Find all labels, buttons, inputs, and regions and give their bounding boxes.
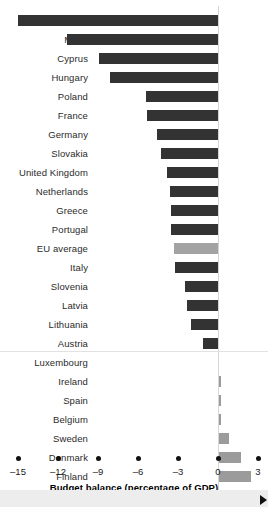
- axis-tick-dot: [96, 456, 101, 461]
- category-label: France: [0, 106, 88, 125]
- page-forward-pointer-icon: [260, 495, 267, 505]
- category-label: Poland: [0, 87, 88, 106]
- chart-row: Ireland: [0, 372, 268, 391]
- category-label: United Kingdom: [0, 163, 88, 182]
- axis-tick-label: –3: [163, 466, 193, 477]
- chart-row: Denmark: [0, 448, 268, 467]
- chart-row: Slovakia: [0, 144, 268, 163]
- chart-row: Poland: [0, 87, 268, 106]
- bar: [174, 243, 218, 254]
- axis-tick-label: –12: [43, 466, 73, 477]
- bar: [157, 129, 218, 140]
- category-label: Sweden: [0, 429, 88, 448]
- bar: [175, 262, 218, 273]
- category-label: Netherlands: [0, 182, 88, 201]
- chart-row: Netherlands: [0, 182, 268, 201]
- chart-row: Belgium: [0, 410, 268, 429]
- category-label: Spain: [0, 391, 88, 410]
- category-label: Latvia: [0, 296, 88, 315]
- chart-row: France: [0, 106, 268, 125]
- axis-tick-label: 0: [203, 466, 233, 477]
- bar: [218, 433, 229, 444]
- axis-tick-label: –6: [123, 466, 153, 477]
- chart-row: Slovenia: [0, 277, 268, 296]
- axis-tick-dot: [16, 456, 21, 461]
- chart-row: Hungary: [0, 68, 268, 87]
- category-label: Denmark: [0, 448, 88, 467]
- positive-negative-separator: [0, 351, 268, 352]
- chart-row: Greece: [0, 201, 268, 220]
- bar: [161, 148, 218, 159]
- category-label: Luxembourg: [0, 353, 88, 372]
- bar: [218, 452, 241, 463]
- bar: [110, 72, 218, 83]
- axis-tick-dot: [176, 456, 181, 461]
- category-label: Greece: [0, 201, 88, 220]
- chart-row: Portugal: [0, 220, 268, 239]
- bar: [167, 167, 218, 178]
- chart-row: Sweden: [0, 429, 268, 448]
- category-label: Slovakia: [0, 144, 88, 163]
- chart-row: Italy: [0, 258, 268, 277]
- category-label: EU average: [0, 239, 88, 258]
- category-label: Ireland: [0, 372, 88, 391]
- x-axis: –15–12–9–6–303: [0, 0, 268, 60]
- bar: [187, 300, 218, 311]
- axis-tick-label: –9: [83, 466, 113, 477]
- axis-tick-label: –15: [3, 466, 33, 477]
- budget-balance-chart: Czech RepublicMaltaCyprusHungaryPolandFr…: [0, 0, 268, 507]
- zero-axis-line: [218, 6, 219, 506]
- bottom-band: [0, 490, 268, 507]
- category-label: Lithuania: [0, 315, 88, 334]
- chart-rows: Czech RepublicMaltaCyprusHungaryPolandFr…: [0, 0, 268, 448]
- bar: [191, 319, 218, 330]
- axis-tick-label: 3: [243, 466, 268, 477]
- bar: [170, 186, 218, 197]
- bar: [185, 281, 218, 292]
- axis-tick-dot: [216, 456, 221, 461]
- bar: [171, 205, 218, 216]
- category-label: Slovenia: [0, 277, 88, 296]
- category-label: Belgium: [0, 410, 88, 429]
- category-label: Portugal: [0, 220, 88, 239]
- category-label: Hungary: [0, 68, 88, 87]
- chart-row: Germany: [0, 125, 268, 144]
- axis-tick-dot: [56, 456, 61, 461]
- bar: [147, 110, 218, 121]
- category-label: Italy: [0, 258, 88, 277]
- bar: [203, 338, 218, 349]
- bar: [171, 224, 218, 235]
- category-label: Germany: [0, 125, 88, 144]
- axis-tick-dot: [256, 456, 261, 461]
- bar: [146, 91, 218, 102]
- chart-row: EU average: [0, 239, 268, 258]
- chart-row: Lithuania: [0, 315, 268, 334]
- chart-row: Spain: [0, 391, 268, 410]
- axis-tick-dot: [136, 456, 141, 461]
- chart-row: United Kingdom: [0, 163, 268, 182]
- chart-row: Latvia: [0, 296, 268, 315]
- chart-row: Luxembourg: [0, 353, 268, 372]
